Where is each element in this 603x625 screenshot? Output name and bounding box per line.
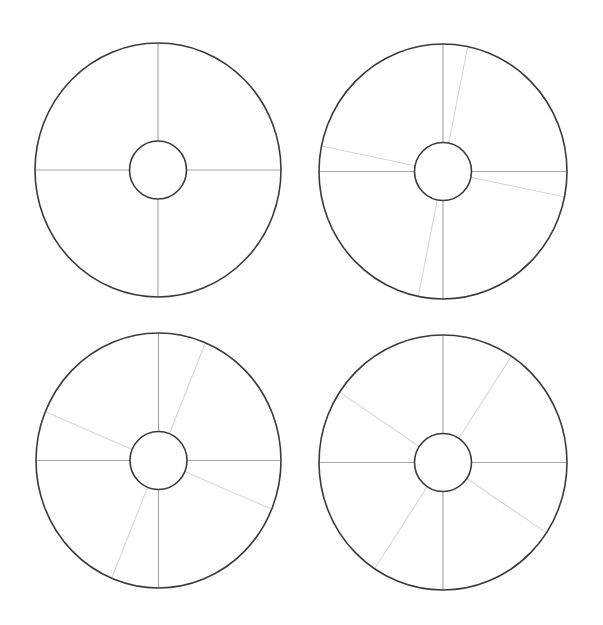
offset-spoke-line: [321, 146, 415, 166]
wheel-diagrams-canvas: [0, 0, 603, 625]
offset-spoke-line: [459, 356, 512, 438]
offset-spoke-line: [340, 392, 420, 446]
offset-spoke-line: [375, 487, 428, 569]
inner-hub-circle: [415, 434, 472, 492]
inner-hub-circle: [130, 141, 187, 199]
inner-hub-circle: [130, 432, 187, 490]
offset-spoke-line: [169, 343, 205, 434]
offset-spoke-line: [112, 487, 148, 578]
inner-hub-circle: [415, 143, 472, 201]
offset-spoke-line: [418, 200, 437, 297]
offset-spoke-line: [185, 472, 272, 510]
offset-spoke-line: [471, 177, 565, 197]
wheel-bottom-right: [319, 335, 567, 590]
offset-spoke-line: [467, 479, 547, 533]
offset-spoke-line: [449, 47, 468, 144]
wheel-top-left: [35, 43, 281, 297]
offset-spoke-line: [45, 412, 132, 450]
wheel-bottom-left: [36, 333, 281, 588]
wheel-top-right: [319, 44, 567, 299]
